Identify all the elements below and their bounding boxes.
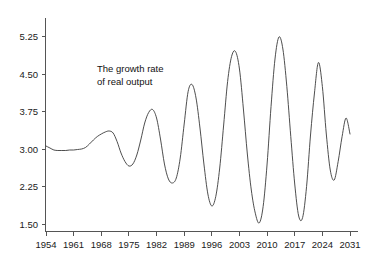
x-tick-label: 1954 — [35, 239, 56, 250]
y-tick-label: 3.00 — [20, 144, 39, 155]
y-tick-label: 2.25 — [20, 181, 39, 192]
y-tick-label: 5.25 — [20, 31, 39, 42]
y-tick-label: 1.50 — [20, 219, 39, 230]
x-tick-label: 1968 — [91, 239, 112, 250]
x-tick-label: 2010 — [257, 239, 278, 250]
growth-rate-chart: 5.25 4.50 3.75 3.00 2.25 1.50 1954 1961 … — [0, 0, 370, 263]
x-tick-label: 2017 — [284, 239, 305, 250]
x-tick-label: 1975 — [118, 239, 139, 250]
x-tick-label: 1982 — [146, 239, 167, 250]
x-tick-label: 1996 — [201, 239, 222, 250]
y-tick-label: 4.50 — [20, 69, 39, 80]
x-tick-label: 2031 — [339, 239, 360, 250]
x-tick-label: 2024 — [312, 239, 333, 250]
annotation-line-1: The growth rate — [97, 63, 164, 74]
x-tick-label: 1961 — [63, 239, 84, 250]
annotation-line-2: of real output — [97, 76, 153, 87]
x-tick-label: 2003 — [229, 239, 250, 250]
x-tick-label: 1989 — [174, 239, 195, 250]
y-tick-label: 3.75 — [20, 106, 39, 117]
chart-background — [0, 0, 370, 263]
